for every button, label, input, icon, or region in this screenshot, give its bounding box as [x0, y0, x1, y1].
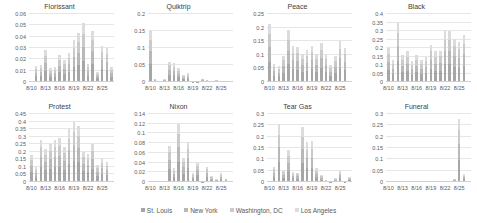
plot-area: 00.050.10.150.20.250.30.350.40.458/108/1…: [29, 114, 114, 182]
bar: [35, 167, 38, 182]
bar: [106, 162, 109, 182]
bar: [420, 60, 423, 82]
bar: [411, 61, 414, 82]
chart-peace: Peace00.050.10.150.20.258/108/138/168/19…: [238, 0, 357, 100]
bar: [73, 40, 76, 82]
y-tick-label: 0.1: [375, 62, 383, 68]
x-tick-label: 8/10: [26, 85, 37, 91]
x-tick-label: 8/10: [383, 85, 394, 91]
bar: [287, 150, 290, 182]
bar: [58, 55, 61, 82]
chart-grid: Florissant00.010.020.030.040.050.068/108…: [0, 0, 477, 200]
x-tick-label: 8/13: [278, 85, 289, 91]
x-tick-label: 8/22: [83, 185, 94, 191]
x-tick-label: 8/16: [411, 85, 422, 91]
x-tick-label: 8/22: [202, 85, 213, 91]
x-tick-label: 8/10: [383, 185, 394, 191]
x-tick-label: 8/25: [335, 185, 346, 191]
y-tick-label: 0.2: [256, 134, 264, 140]
bar: [177, 124, 180, 182]
bar: [425, 57, 428, 83]
x-tick-label: 8/19: [307, 185, 318, 191]
y-tick-label: 0.1: [18, 164, 26, 170]
bar: [91, 144, 94, 182]
bar: [110, 67, 113, 82]
x-tick-label: 8/13: [278, 185, 289, 191]
x-axis: [386, 181, 471, 182]
plot-area: 00.050.10.150.28/108/138/168/198/228/25: [148, 14, 233, 82]
x-axis: [29, 181, 114, 182]
bar: [325, 53, 328, 82]
bar: [87, 64, 90, 82]
chart-quiktrip: Quiktrip00.050.10.150.28/108/138/168/198…: [119, 0, 238, 100]
x-tick-label: 8/22: [321, 185, 332, 191]
x-axis: [148, 181, 233, 182]
y-tick-label: 0.05: [372, 168, 383, 174]
bar: [401, 55, 404, 82]
legend-item-los-angeles: Los Angeles: [295, 207, 336, 214]
y-tick-label: 0.25: [15, 141, 26, 147]
chart-title: Florissant: [0, 3, 119, 10]
x-tick-label: 8/16: [173, 185, 184, 191]
x-tick-label: 8/10: [264, 185, 275, 191]
bar: [77, 33, 80, 82]
x-tick-label: 8/19: [69, 85, 80, 91]
bar: [54, 140, 57, 182]
plot-area: 00.050.10.150.20.258/108/138/168/198/228…: [267, 14, 352, 82]
x-tick-label: 8/10: [145, 185, 156, 191]
bar: [63, 60, 66, 82]
bar: [392, 60, 395, 82]
x-tick-label: 8/16: [54, 185, 65, 191]
x-axis: [148, 81, 233, 82]
y-tick-label: 0.12: [134, 121, 145, 127]
y-tick-label: 0.05: [253, 65, 264, 71]
y-tick-label: 0.05: [15, 171, 26, 177]
y-tick-label: 0.15: [15, 156, 26, 162]
x-tick-label: 8/10: [145, 85, 156, 91]
x-tick-label: 8/25: [454, 85, 465, 91]
x-tick-label: 8/25: [97, 85, 108, 91]
bar-series: [386, 114, 471, 182]
bar: [30, 155, 33, 182]
x-tick-label: 8/16: [173, 85, 184, 91]
bar: [397, 23, 400, 83]
x-axis: [386, 81, 471, 82]
bar: [44, 149, 47, 182]
bar: [101, 46, 104, 82]
bar-series: [29, 114, 114, 182]
y-tick-label: 0.4: [375, 11, 383, 17]
y-tick-label: 0.04: [15, 34, 26, 40]
y-tick-label: 0.15: [253, 145, 264, 151]
y-tick-label: 0.02: [134, 169, 145, 175]
chart-title: Nixon: [119, 103, 238, 110]
bar: [444, 30, 447, 82]
bar: [306, 142, 309, 182]
bar: [58, 138, 61, 182]
bar: [182, 158, 185, 182]
bar: [268, 24, 271, 82]
y-tick-label: 0.3: [18, 134, 26, 140]
x-tick-label: 8/19: [426, 85, 437, 91]
legend-label: Washington, DC: [236, 207, 283, 214]
y-tick-label: 0.06: [134, 150, 145, 156]
y-tick-label: 0.02: [15, 56, 26, 62]
bar: [315, 54, 318, 82]
bar: [273, 64, 276, 82]
bar: [91, 31, 94, 82]
y-tick-label: 0.25: [253, 11, 264, 17]
x-tick-label: 8/13: [397, 185, 408, 191]
y-tick-label: 0.25: [372, 37, 383, 43]
y-tick-label: 0.2: [18, 149, 26, 155]
bar: [73, 122, 76, 182]
y-tick-label: 0.05: [134, 62, 145, 68]
bar: [168, 62, 171, 82]
y-tick-label: 0.1: [137, 130, 145, 136]
bar: [458, 119, 461, 182]
bar: [77, 126, 80, 182]
chart-title: Protest: [0, 103, 119, 110]
x-tick-label: 8/19: [307, 85, 318, 91]
chart-title: Quiktrip: [119, 3, 238, 10]
x-tick-label: 8/16: [292, 85, 303, 91]
legend-swatch-icon: [295, 208, 299, 212]
x-axis: [267, 81, 352, 82]
